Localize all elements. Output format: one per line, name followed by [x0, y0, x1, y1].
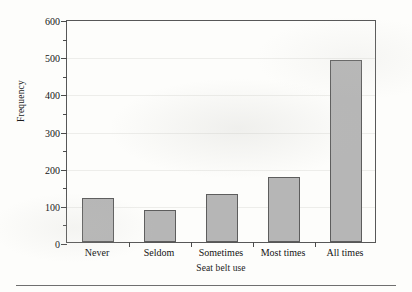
bars-layer — [67, 21, 375, 242]
bar — [82, 198, 114, 242]
plot-frame: 0100200300400500600 — [66, 20, 376, 243]
bar-chart-figure: Frequency 0100200300400500600 NeverSeldo… — [0, 0, 412, 292]
bar — [206, 194, 238, 242]
y-axis-title: Frequency — [16, 56, 26, 146]
y-axis-tick-label: 0 — [55, 239, 60, 250]
bar — [144, 210, 176, 242]
y-axis-tick-label: 600 — [45, 16, 60, 27]
y-axis-tick-label: 200 — [45, 164, 60, 175]
x-axis-tick-label: All times — [327, 247, 364, 258]
y-axis-tick-label: 300 — [45, 127, 60, 138]
x-axis-tick-label: Seldom — [144, 247, 175, 258]
x-axis-tick-label: Sometimes — [199, 247, 243, 258]
x-axis-tick-label: Never — [85, 247, 109, 258]
x-axis-tick-label: Most times — [261, 247, 306, 258]
page-divider-rule — [16, 285, 396, 286]
x-axis-tick-labels: NeverSeldomSometimesMost timesAll times — [66, 247, 376, 263]
y-axis-tick-label: 500 — [45, 53, 60, 64]
bar — [330, 60, 362, 242]
y-axis-tick-label: 400 — [45, 90, 60, 101]
y-axis-tick — [61, 244, 67, 245]
x-axis-title: Seat belt use — [66, 263, 376, 273]
bar — [268, 177, 300, 242]
y-axis-tick-label: 100 — [45, 201, 60, 212]
